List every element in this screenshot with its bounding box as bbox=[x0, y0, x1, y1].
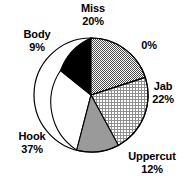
pie-label-zero-value: 0% bbox=[131, 39, 167, 52]
pie-label-body-value: 9% bbox=[8, 41, 66, 54]
pie-label-jab-value: 22% bbox=[141, 93, 185, 106]
pie-label-hook-name: Hook bbox=[6, 130, 58, 143]
pie-label-uppercut-name: Uppercut bbox=[116, 150, 188, 163]
pie-chart: Miss 20% Body 9% 0% Jab 22% Uppercut 12%… bbox=[0, 0, 189, 187]
pie-label-body: Body 9% bbox=[8, 28, 66, 53]
pie-label-zero: 0% bbox=[131, 39, 167, 52]
pie-label-miss: Miss 20% bbox=[62, 2, 124, 27]
pie-label-jab-name: Jab bbox=[141, 80, 185, 93]
pie-label-jab: Jab 22% bbox=[141, 80, 185, 105]
pie-label-hook: Hook 37% bbox=[6, 130, 58, 155]
pie-label-uppercut-value: 12% bbox=[116, 163, 188, 176]
pie-label-hook-value: 37% bbox=[6, 143, 58, 156]
pie-label-miss-value: 20% bbox=[62, 15, 124, 28]
pie-label-body-name: Body bbox=[8, 28, 66, 41]
pie-label-miss-name: Miss bbox=[62, 2, 124, 15]
pie-label-uppercut: Uppercut 12% bbox=[116, 150, 188, 175]
